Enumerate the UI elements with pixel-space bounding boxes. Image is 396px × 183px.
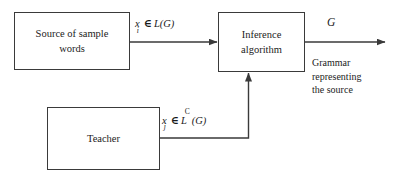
box-teacher-label-line1: Teacher xyxy=(87,133,120,144)
box-inference-label-line2: algorithm xyxy=(241,44,282,55)
box-source-of-sample-words[interactable]: Source of sample words xyxy=(14,12,130,70)
negative-set-arg: (G) xyxy=(192,115,207,126)
diagram-canvas: Source of sample words Inference algorit… xyxy=(0,0,396,183)
box-teacher[interactable]: Teacher xyxy=(47,107,160,170)
output-caption-line2: representing xyxy=(312,71,361,82)
element-of-icon: ∈ xyxy=(169,114,181,126)
box-source-label-line2: words xyxy=(59,43,85,54)
box-inference-algorithm[interactable]: Inference algorithm xyxy=(218,12,305,72)
negative-subscript: j xyxy=(164,122,166,131)
positive-set: L(G) xyxy=(154,18,174,29)
positive-subscript: i xyxy=(137,26,139,35)
negative-set-superscript: C xyxy=(185,107,190,116)
negative-set-base: L xyxy=(181,115,187,126)
box-source-label-line1: Source of sample xyxy=(36,28,109,39)
box-inference-label: Inference algorithm xyxy=(235,27,288,57)
box-teacher-label: Teacher xyxy=(81,131,126,146)
box-source-label: Source of sample words xyxy=(30,26,115,56)
box-inference-label-line1: Inference xyxy=(242,29,282,40)
output-caption-line1: Grammar xyxy=(312,57,350,68)
label-output-caption: Grammar representing the source xyxy=(312,56,361,97)
label-output-grammar-symbol: G xyxy=(327,16,335,28)
label-positive-samples: xi∈L(G) xyxy=(135,17,174,32)
element-of-icon: ∈ xyxy=(142,17,154,29)
label-negative-samples: xj∈LC(G) xyxy=(162,112,206,129)
output-caption-line3: the source xyxy=(312,84,353,95)
